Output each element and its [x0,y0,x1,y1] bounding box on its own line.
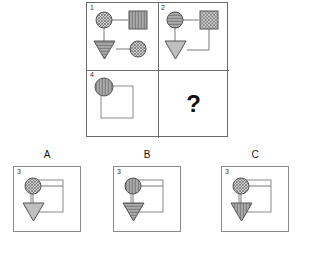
cell-number-label: 1 [90,3,94,12]
matrix-cell-2: 2 [158,3,229,70]
option-c-box[interactable]: 3 [221,166,289,232]
matrix-cell-1: 1 [87,3,158,70]
shape-triangle-horizontal-stripes [94,41,115,59]
answer-option-b[interactable]: B 3 [113,148,181,232]
cell-number-label: 4 [90,70,94,79]
matrix-cell-4: 4 [87,70,158,137]
option-a-box[interactable]: 3 [13,166,81,232]
cell-1-figure [87,3,158,70]
shape-triangle-solid-gray [165,41,186,59]
answer-option-a[interactable]: A 3 [13,148,81,232]
option-c-figure [222,167,288,231]
option-label-b: B [113,148,181,162]
shape-square-vertical-stripes [129,11,147,29]
cell-4-figure [87,70,158,137]
option-number-label: 3 [225,167,229,176]
option-number-label: 3 [17,167,21,176]
shape-square-crosshatch [200,11,218,29]
question-mark: ? [158,70,229,137]
option-b-box[interactable]: 3 [113,166,181,232]
shape-circle-crosshatch [233,178,249,194]
shape-circle-horizontal-stripes [167,12,183,28]
cell-2-figure [158,3,229,70]
option-a-figure [14,167,80,231]
shape-circle-vertical-stripes [125,178,141,194]
option-label-a: A [13,148,81,162]
option-label-c: C [221,148,289,162]
shape-circle-crosshatch [25,178,41,194]
option-b-figure [114,167,180,231]
matrix-cell-answer-slot: ? [158,70,229,137]
answer-option-c[interactable]: C 3 [221,148,289,232]
matrix-grid: 1 2 4 [86,2,228,137]
shape-circle-crosshatch [96,12,112,28]
cell-number-label: 2 [161,3,165,12]
option-number-label: 3 [117,167,121,176]
shape-circle-crosshatch-2 [130,41,146,57]
shape-circle-vertical-stripes [95,78,113,96]
connector-square-elbow-to-triangle [187,29,209,50]
answer-options-row: A 3 B 3 C 3 [0,148,314,258]
